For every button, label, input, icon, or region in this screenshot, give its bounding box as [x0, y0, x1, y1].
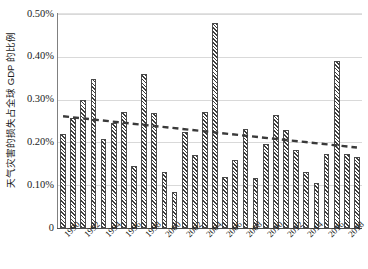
- y-tick-label: 0.50%: [16, 8, 54, 19]
- y-tick-label: 0.40%: [16, 50, 54, 61]
- y-tick: 0.30%: [12, 93, 54, 105]
- y-tick: 0.40%: [12, 50, 54, 62]
- y-tick: 0.10%: [12, 179, 54, 191]
- trend-line: [58, 14, 362, 228]
- chart-container: 天气灾害的损失占全球 GDP 的比例 00.10%0.20%0.30%0.40%…: [0, 0, 368, 269]
- y-tick-label: 0.30%: [16, 93, 54, 104]
- y-tick: 0.20%: [12, 136, 54, 148]
- trend-line-path: [63, 116, 357, 147]
- y-tick: 0.50%: [12, 8, 54, 20]
- y-tick-label: 0.20%: [16, 136, 54, 147]
- y-tick-label: 0.10%: [16, 179, 54, 190]
- y-tick-label: 0: [16, 222, 54, 233]
- y-tick: 0: [12, 222, 54, 234]
